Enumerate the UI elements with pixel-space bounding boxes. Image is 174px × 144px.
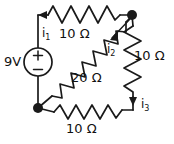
node-dot-top-right — [127, 10, 137, 20]
current-label-i1: i1 — [42, 27, 50, 39]
source-label: 9V — [4, 55, 21, 68]
resistor-bottom-zigzag — [54, 105, 122, 119]
current-i2-subscript: 2 — [110, 49, 115, 58]
current-label-i3: i3 — [141, 98, 149, 110]
current-i1-subscript: 1 — [45, 33, 50, 42]
circuit-diagram: 9V i1 i2 i3 10 Ω 10 Ω 20 Ω 10 Ω — [0, 0, 174, 144]
current-i3-subscript: 3 — [144, 104, 149, 113]
node-dot-bottom-left — [33, 103, 43, 113]
resistor-top-zigzag — [48, 6, 120, 23]
resistor-bottom-label: 10 Ω — [66, 122, 97, 135]
current-label-i2: i2 — [107, 43, 115, 55]
current-arrow-i1 — [38, 11, 47, 19]
resistor-middle-label: 20 Ω — [71, 71, 102, 84]
voltage-source-symbol — [24, 48, 52, 76]
resistor-right-label: 10 Ω — [134, 49, 165, 62]
resistor-top-label: 10 Ω — [59, 27, 90, 40]
current-arrow-i3 — [129, 97, 137, 106]
